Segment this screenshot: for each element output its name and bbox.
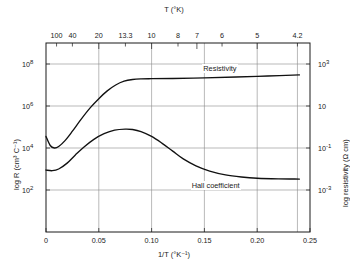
hall-coefficient-curve-label: Hall coefficient <box>191 181 241 190</box>
axis-ticks <box>46 43 310 232</box>
gridlines <box>46 43 310 232</box>
resistivity-curve-label: Resistivity <box>202 64 237 73</box>
plot-frame <box>46 43 310 232</box>
data-curves <box>46 75 299 179</box>
